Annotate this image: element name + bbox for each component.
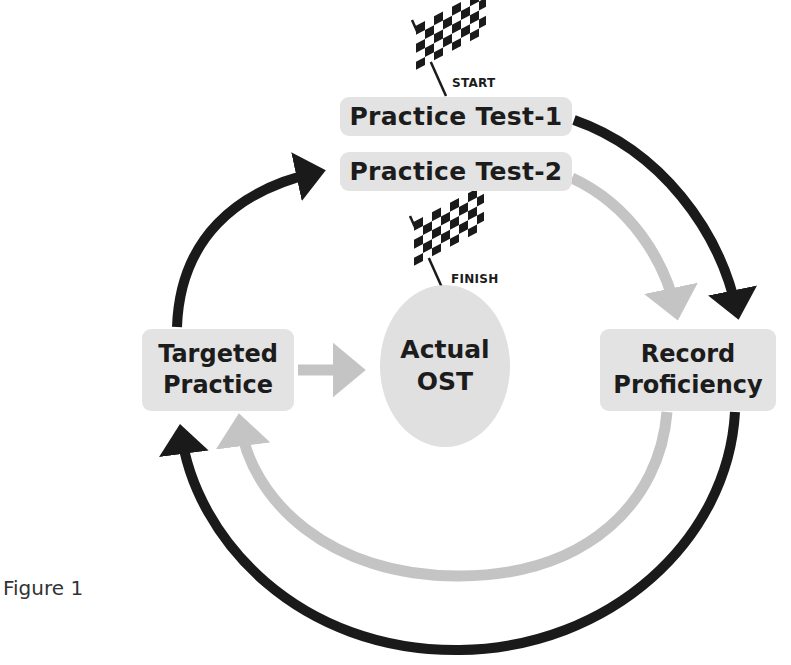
practice-test-2-node: Practice Test-2: [340, 152, 572, 191]
dark-arrow-record-to-targeted: [181, 412, 735, 650]
figure-caption: Figure 1: [3, 576, 83, 600]
targeted-practice-node: Targeted Practice: [142, 329, 294, 411]
finish-label: FINISH: [451, 272, 499, 286]
actual-ost-node: Actual OST: [380, 285, 510, 447]
record-proficiency-line-2: Proficiency: [613, 370, 762, 401]
actual-ost-line-1: Actual: [400, 334, 489, 366]
record-proficiency-line-1: Record: [641, 339, 736, 370]
light-arrow-pt2-to-record: [572, 178, 676, 312]
record-proficiency-node: Record Proficiency: [600, 329, 776, 411]
start-label: START: [452, 76, 496, 90]
targeted-practice-line-2: Practice: [163, 370, 273, 401]
actual-ost-line-2: OST: [417, 366, 473, 398]
dark-arrow-pt1-to-record: [574, 120, 737, 312]
targeted-practice-line-1: Targeted: [158, 339, 278, 370]
practice-test-1-node: Practice Test-1: [340, 97, 572, 136]
dark-arrow-targeted-to-pt2: [177, 172, 318, 327]
